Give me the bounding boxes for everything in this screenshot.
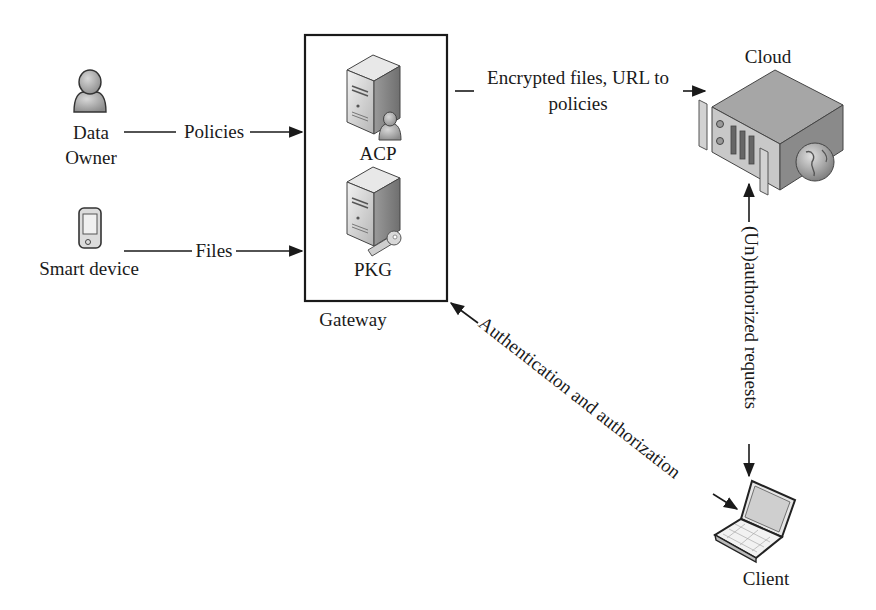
cloud-label: Cloud [745,46,792,67]
cloud-node: Cloud [699,46,843,195]
unauthorized-requests-edge: (Un)authorized requests [740,184,762,476]
user-icon [74,70,106,112]
unauthorized-requests-label: (Un)authorized requests [740,226,762,409]
data-owner-label-line1: Data [73,122,109,143]
authentication-label: Authentication and authorization [475,312,685,483]
policies-edge: Policies [124,121,302,142]
smart-device-label: Smart device [39,258,139,279]
authentication-edge: Authentication and authorization [451,303,737,509]
encrypted-files-edge: Encrypted files, URL to policies [455,67,705,114]
client-node: Client [715,481,795,589]
policies-label: Policies [184,121,244,142]
client-label: Client [743,568,790,589]
server-user-icon [347,55,401,140]
files-edge: Files [124,240,302,261]
pkg-label: PKG [354,259,392,280]
acp-label: ACP [360,143,397,164]
smart-device-node: Smart device [39,208,139,279]
rack-server-globe-icon [699,70,843,195]
encrypted-files-label-line1: Encrypted files, URL to [487,67,669,88]
encrypted-files-label-line2: policies [548,93,607,114]
architecture-diagram: Data Owner Smart device Policies Files [0,0,876,610]
data-owner-label-line2: Owner [65,147,117,168]
gateway-label: Gateway [319,309,387,330]
laptop-icon [715,481,795,562]
files-label: Files [196,240,233,261]
data-owner-node: Data Owner [65,70,117,168]
gateway-node: ACP PKG Gateway [305,35,447,330]
smartphone-icon [79,208,101,248]
server-key-icon [347,167,401,256]
